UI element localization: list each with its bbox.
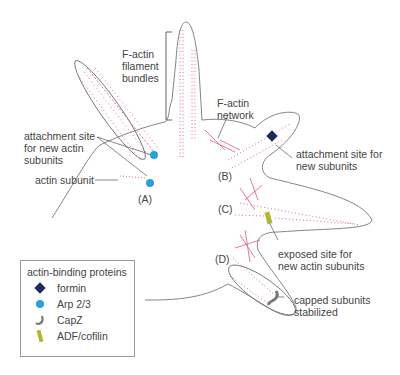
hook-icon bbox=[33, 313, 47, 327]
legend-label: formin bbox=[57, 282, 86, 294]
label-capped-subunits: capped subunits stabilized bbox=[294, 294, 370, 318]
label-c: (C) bbox=[218, 203, 233, 215]
legend-item-arp23: Arp 2/3 bbox=[27, 296, 128, 312]
filament-bundle-b bbox=[228, 124, 290, 168]
label-exposed-site: exposed site for new actin subunits bbox=[278, 248, 364, 272]
arp23-marker bbox=[150, 151, 158, 159]
formin-marker bbox=[266, 130, 277, 141]
legend-item-formin: formin bbox=[27, 280, 128, 296]
filament-bundle-c bbox=[235, 203, 360, 225]
label-b: (B) bbox=[218, 170, 232, 182]
legend-item-capz: CapZ bbox=[27, 312, 128, 328]
filament-bundle-top bbox=[180, 30, 195, 158]
label-filament-bundles: F-actin filament bundles bbox=[122, 48, 159, 84]
legend-item-cofilin: ADF/cofilin bbox=[27, 328, 128, 344]
label-attachment-new-subunits: attachment site for new subunits bbox=[296, 148, 382, 172]
rod-icon bbox=[33, 329, 47, 343]
legend-label: CapZ bbox=[57, 314, 83, 326]
legend-label: Arp 2/3 bbox=[57, 298, 91, 310]
label-a: (A) bbox=[138, 193, 152, 205]
label-d: (D) bbox=[215, 253, 230, 265]
circle-icon bbox=[33, 297, 47, 311]
arp23-marker bbox=[146, 179, 154, 187]
diamond-icon bbox=[33, 281, 47, 295]
legend: actin-binding proteins formin Arp 2/3 Ca… bbox=[20, 260, 135, 357]
label-actin-subunit: actin subunit bbox=[35, 174, 94, 186]
cofilin-marker bbox=[265, 211, 273, 224]
protrusion-a-filaments bbox=[73, 76, 153, 134]
label-attachment-new-actin: attachment site for new actin subunits bbox=[24, 130, 95, 166]
f-actin-network bbox=[205, 130, 262, 262]
legend-label: ADF/cofilin bbox=[57, 330, 108, 342]
label-f-actin-network: F-actin network bbox=[217, 97, 254, 121]
bracket bbox=[166, 32, 172, 120]
legend-title: actin-binding proteins bbox=[27, 266, 128, 278]
